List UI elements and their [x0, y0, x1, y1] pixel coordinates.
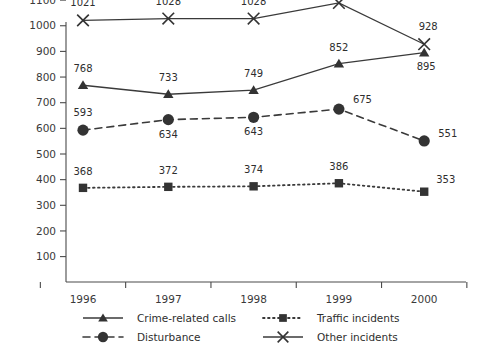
- data-point-label: 749: [244, 68, 263, 79]
- data-point-label: 353: [436, 174, 455, 185]
- y-tick-label: 1000: [29, 19, 56, 31]
- legend-label: Other incidents: [317, 331, 398, 343]
- data-point-label: 551: [438, 128, 457, 139]
- x-tick-label: 2000: [411, 293, 438, 305]
- y-tick-label: 500: [36, 148, 56, 160]
- y-tick-label: 1100: [29, 0, 56, 6]
- y-tick-label: 100: [36, 250, 56, 262]
- data-point-marker-circle: [98, 332, 108, 342]
- legend-label: Disturbance: [137, 331, 201, 343]
- data-point-marker-circle: [333, 104, 344, 115]
- data-point-label: 928: [419, 21, 438, 32]
- legend-label: Traffic incidents: [316, 312, 400, 324]
- y-tick-label: 200: [36, 225, 56, 237]
- data-label-layer: 7687337498528955936346436755513683723743…: [70, 0, 457, 185]
- data-point-marker-triangle: [78, 80, 88, 89]
- data-point-marker-circle: [77, 125, 88, 136]
- y-tick-label: 800: [36, 71, 56, 83]
- y-tick-label: 400: [36, 173, 56, 185]
- legend-item-traffic-incidents[interactable]: Traffic incidents: [263, 312, 400, 324]
- data-point-marker-square: [335, 179, 343, 187]
- y-tick-label: 600: [36, 122, 56, 134]
- axis-group: [40, 0, 467, 288]
- data-point-label: 895: [417, 61, 436, 72]
- data-point-label: 593: [73, 107, 92, 118]
- data-point-marker-square: [249, 182, 257, 190]
- line-chart: 11001000900800700600500400300200100 1996…: [0, 0, 478, 356]
- series-other-incidents: [77, 0, 430, 50]
- data-point-label: 675: [353, 94, 372, 105]
- data-point-marker-square: [420, 188, 428, 196]
- x-tick-label: 1998: [240, 293, 267, 305]
- x-tick-marks: [40, 282, 467, 288]
- y-tick-labels: 11001000900800700600500400300200100: [29, 0, 56, 262]
- data-point-label: 768: [73, 63, 92, 74]
- y-tick-label: 300: [36, 199, 56, 211]
- x-tick-label: 1996: [70, 293, 97, 305]
- y-tick-label: 900: [36, 45, 56, 57]
- data-point-marker-circle: [163, 114, 174, 125]
- legend-label: Crime-related calls: [137, 312, 236, 324]
- x-tick-labels: 19961997199819992000: [70, 293, 438, 305]
- data-point-marker-square: [279, 314, 287, 322]
- data-point-marker-circle: [248, 112, 259, 123]
- series-traffic-incidents: [79, 179, 429, 196]
- data-point-label: 643: [244, 126, 263, 137]
- series-line: [83, 3, 424, 44]
- y-tick-marks: [60, 0, 66, 257]
- y-tick-label: 700: [36, 96, 56, 108]
- data-point-marker-circle: [419, 135, 430, 146]
- x-tick-label: 1999: [326, 293, 353, 305]
- data-point-marker-triangle: [419, 48, 429, 57]
- data-point-label: 1028: [156, 0, 181, 7]
- x-tick-label: 1997: [155, 293, 182, 305]
- data-point-label: 852: [329, 42, 348, 53]
- chart-canvas: 11001000900800700600500400300200100 1996…: [0, 0, 478, 356]
- data-point-marker-square: [79, 184, 87, 192]
- data-point-label: 1028: [241, 0, 266, 7]
- data-point-label: 374: [244, 164, 263, 175]
- chart-legend: Crime-related callsTraffic incidentsDist…: [83, 312, 400, 343]
- data-point-label: 733: [159, 72, 178, 83]
- data-point-label: 368: [73, 166, 92, 177]
- series-disturbance: [77, 104, 429, 147]
- data-point-label: 372: [159, 165, 178, 176]
- legend-item-disturbance[interactable]: Disturbance: [83, 331, 201, 343]
- data-point-marker-square: [164, 183, 172, 191]
- data-point-label: 386: [329, 161, 348, 172]
- legend-item-crime-related-calls[interactable]: Crime-related calls: [83, 312, 236, 324]
- data-point-label: 634: [159, 129, 178, 140]
- legend-item-other-incidents[interactable]: Other incidents: [263, 331, 398, 343]
- data-point-label: 1021: [70, 0, 95, 8]
